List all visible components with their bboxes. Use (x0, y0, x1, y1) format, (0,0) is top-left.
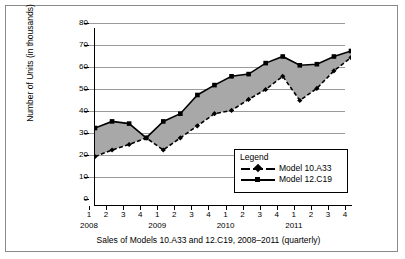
data-point-marker-model-12-c19 (161, 119, 166, 124)
x-axis-year-label: 2009 (137, 221, 177, 230)
x-axis-year-label: 2011 (274, 221, 314, 230)
data-point-marker-model-12-c19 (178, 111, 183, 116)
x-tick-label-quarter: 2 (100, 210, 112, 219)
figure-container: Number of Units (in thousands) 010203040… (0, 0, 405, 259)
x-tick-label-quarter: 2 (237, 210, 249, 219)
data-point-marker-model-12-c19 (349, 49, 351, 54)
x-tick-label-quarter: 4 (339, 210, 351, 219)
legend-key-solid-square (240, 174, 276, 185)
x-tick-label-quarter: 3 (185, 210, 197, 219)
legend-label-model-12-c19: Model 12.C19 (276, 174, 332, 185)
data-point-marker-model-12-c19 (195, 93, 200, 98)
x-tick-label-quarter: 4 (202, 210, 214, 219)
x-tick-label-quarter: 1 (83, 210, 95, 219)
data-point-marker-model-12-c19 (280, 54, 285, 59)
data-point-marker-model-12-c19 (298, 63, 303, 68)
y-tick-mark (84, 199, 89, 200)
y-axis-title: Number of Units (in thousands) (25, 0, 35, 128)
x-tick-label-quarter: 3 (254, 210, 266, 219)
legend-box: Legend Model 10.A33 Model 12.C19 (234, 149, 348, 193)
x-axis-year-label: 2010 (206, 221, 246, 230)
x-axis-line (94, 205, 352, 206)
x-tick-label-quarter: 1 (151, 210, 163, 219)
data-point-marker-model-12-c19 (315, 62, 320, 67)
x-tick-label-quarter: 4 (271, 210, 283, 219)
x-axis-year-label: 2008 (69, 221, 109, 230)
legend-item-model-12-c19: Model 12.C19 (240, 174, 343, 185)
data-point-marker-model-12-c19 (144, 136, 149, 141)
figure-caption: Sales of Models 10.A33 and 12.C19, 2008–… (6, 235, 405, 245)
x-tick-label-quarter: 3 (117, 210, 129, 219)
x-tick-label-quarter: 2 (305, 210, 317, 219)
legend-label-model-10-a33: Model 10.A33 (276, 163, 331, 174)
x-tick-label-quarter: 1 (220, 210, 232, 219)
shaded-difference-band (95, 51, 351, 157)
legend-key-dashed-diamond (240, 163, 276, 174)
data-point-marker-model-12-c19 (212, 83, 217, 88)
gridline (89, 23, 345, 24)
legend-item-model-10-a33: Model 10.A33 (240, 163, 343, 174)
data-point-marker-model-12-c19 (95, 126, 97, 131)
legend-title: Legend (240, 152, 343, 163)
data-point-marker-model-12-c19 (332, 54, 337, 59)
data-point-marker-model-12-c19 (246, 72, 251, 77)
data-point-marker-model-12-c19 (110, 119, 115, 124)
data-point-marker-model-12-c19 (263, 61, 268, 66)
figure-border: Number of Units (in thousands) 010203040… (5, 5, 398, 252)
x-tick-label-quarter: 4 (134, 210, 146, 219)
data-point-marker-model-12-c19 (127, 121, 132, 126)
data-point-marker-model-12-c19 (229, 74, 234, 79)
x-tick-label-quarter: 3 (322, 210, 334, 219)
x-tick-label-quarter: 1 (288, 210, 300, 219)
x-tick-label-quarter: 2 (168, 210, 180, 219)
